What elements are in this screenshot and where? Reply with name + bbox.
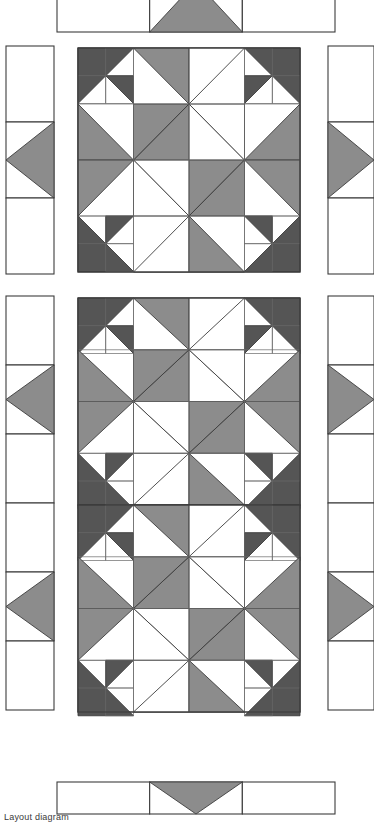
border-cell xyxy=(328,198,374,274)
left-border-strip-lower xyxy=(6,296,54,710)
corner-hst-unit-tr xyxy=(245,48,301,104)
border-cell xyxy=(328,434,374,503)
corner-hst-unit-tl xyxy=(78,505,134,561)
border-cell xyxy=(6,503,54,572)
border-cell xyxy=(6,46,54,122)
right-border-strip-lower xyxy=(328,296,374,710)
border-cell xyxy=(6,434,54,503)
border-cell xyxy=(328,641,374,710)
border-cell xyxy=(328,503,374,572)
border-cell xyxy=(242,782,335,814)
bottom-border-strip xyxy=(57,782,335,814)
border-cell xyxy=(328,296,374,365)
border-cell xyxy=(6,198,54,274)
corner-hst-unit-tr xyxy=(245,505,301,561)
corner-hst-unit-br xyxy=(245,660,301,716)
diagram-caption: Layout diagram xyxy=(4,812,69,822)
corner-hst-unit-bl xyxy=(78,216,134,272)
border-cell xyxy=(6,641,54,710)
corner-hst-unit-br xyxy=(245,216,301,272)
corner-hst-unit-br xyxy=(245,453,301,509)
border-cell xyxy=(242,0,335,32)
quilt-block-1 xyxy=(78,48,300,272)
border-cell xyxy=(57,0,150,32)
corner-hst-unit-tr xyxy=(245,298,301,354)
left-border-strip-upper xyxy=(6,46,54,274)
corner-hst-unit-bl xyxy=(78,453,134,509)
border-cell xyxy=(6,296,54,365)
corner-hst-unit-tl xyxy=(78,298,134,354)
corner-hst-unit-bl xyxy=(78,660,134,716)
top-border-strip xyxy=(57,0,335,32)
quilt-block-2 xyxy=(78,298,300,509)
right-border-strip-upper xyxy=(328,46,374,274)
border-cell xyxy=(328,46,374,122)
quilt-block-3 xyxy=(78,505,300,716)
border-cell xyxy=(57,782,150,814)
corner-hst-unit-tl xyxy=(78,48,134,104)
